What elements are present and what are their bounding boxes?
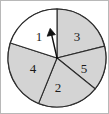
spinner-figure: 1 3 5 2 4	[0, 0, 109, 114]
spinner-pivot	[56, 57, 58, 59]
sector-label-5: 5	[81, 61, 88, 76]
sector-label-2: 2	[55, 80, 62, 95]
sector-label-1: 1	[36, 29, 43, 44]
sector-label-4: 4	[30, 61, 37, 76]
sector-label-3: 3	[74, 29, 81, 44]
spinner-wheel-graphic: 1 3 5 2 4	[0, 0, 109, 114]
